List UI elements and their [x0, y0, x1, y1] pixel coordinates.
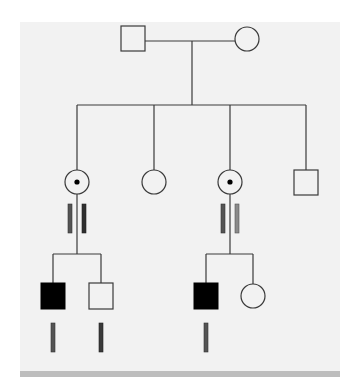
carrier-dot-icon — [74, 179, 79, 184]
female-unaffected-I-2 — [235, 27, 259, 51]
male-unaffected-I-1 — [121, 26, 145, 51]
female-unaffected-II-2 — [142, 170, 166, 194]
chromosome-bar-III-2 — [99, 323, 103, 352]
carrier-dot-icon — [227, 179, 232, 184]
chromosome-bar-II-1-b — [82, 204, 86, 233]
chromosome-bar-II-1-a — [68, 204, 72, 233]
male-unaffected-III-2 — [89, 283, 113, 309]
male-unaffected-II-4 — [294, 170, 318, 195]
male-affected-III-1 — [41, 283, 65, 309]
chromosome-bar-II-3-b — [235, 204, 239, 233]
chromosome-bar-III-3 — [204, 323, 208, 352]
pedigree-chart — [0, 0, 359, 392]
chromosome-bar-III-1 — [51, 323, 55, 352]
chromosome-bar-II-3-a — [221, 204, 225, 233]
female-unaffected-III-4 — [241, 284, 265, 308]
male-affected-III-3 — [194, 283, 218, 309]
